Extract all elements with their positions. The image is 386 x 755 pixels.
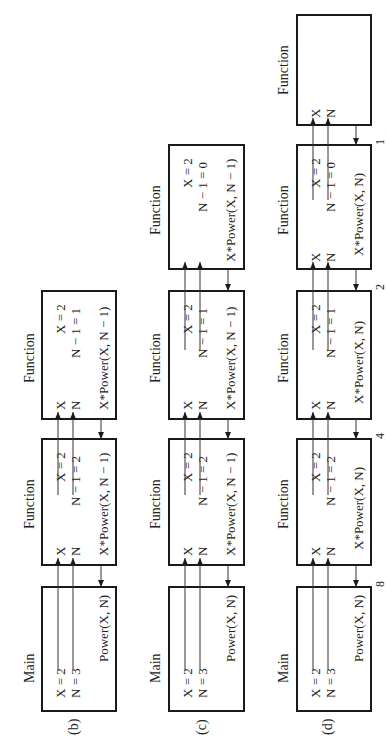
recursion-diagram: (b) Main X = 2 N = 3 Power(X, N) Functio… [0, 0, 386, 755]
arrows [0, 0, 386, 755]
